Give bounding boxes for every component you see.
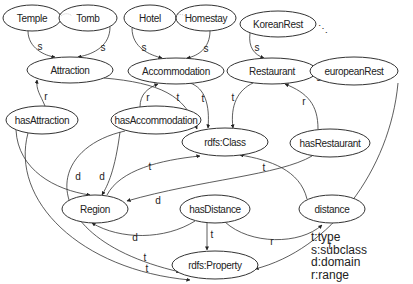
edge-temple-attraction: s <box>28 31 55 57</box>
edge-hasdistance-distance: r <box>225 222 322 247</box>
edge-hasrestaurant-restaurant: r <box>285 84 318 129</box>
node-label: Attraction <box>50 65 89 76</box>
node-distance: distance <box>299 195 365 223</box>
edge-restaurant-rdfsclass: t <box>232 83 253 128</box>
edge-label: t <box>177 92 180 103</box>
node-label: Accommodation <box>142 66 210 77</box>
legend-item-domain: d:domain <box>311 256 367 269</box>
edge-region-rdfsclass: t <box>107 156 200 195</box>
edge-label: r <box>302 96 306 107</box>
node-attraction: Attraction <box>27 57 113 83</box>
edge-hasaccommodation-region: d <box>99 132 120 195</box>
edge-line <box>285 84 318 129</box>
legend: t:type s:subclass d:domain r:range <box>311 231 367 281</box>
edge-line <box>232 83 253 128</box>
node-label: Tomb <box>76 13 100 24</box>
edge-line <box>240 155 307 199</box>
edge-hasattraction-region: d <box>16 130 90 195</box>
edge-distance-rdfsclass: t <box>240 155 307 199</box>
node-temple: Temple <box>3 5 61 31</box>
node-restaurant: Restaurant <box>227 58 317 84</box>
ellipsis-more-indicator: ⋱ <box>318 23 328 34</box>
node-hasaccommodation: hasAccommodation <box>111 106 201 134</box>
node-koreanrest: KoreanRest <box>240 11 316 37</box>
node-label: Hotel <box>139 13 161 24</box>
node-hasattraction: hasAttraction <box>6 106 78 134</box>
edge-label: t <box>202 93 205 104</box>
edge-label: d <box>132 232 138 243</box>
node-region: Region <box>62 195 128 223</box>
legend-item-range: r:range <box>311 269 367 282</box>
node-rdfsclass: rdfs:Class <box>182 128 268 156</box>
edge-label: t <box>211 229 214 240</box>
node-tomb: Tomb <box>59 5 117 31</box>
edge-line <box>16 130 90 195</box>
edge-label: r <box>270 236 274 247</box>
node-homestay: Homestay <box>176 5 236 31</box>
edge-koreanrest-restaurant: s <box>250 33 264 58</box>
node-hotel: Hotel <box>124 5 176 31</box>
edge-label: s <box>101 42 106 53</box>
node-label: KoreanRest <box>253 19 303 30</box>
edge-label: d <box>75 171 81 182</box>
edge-line <box>107 156 200 195</box>
node-label: Homestay <box>185 13 228 24</box>
edge-hotel-accommodation: s <box>132 28 162 58</box>
node-hasrestaurant: hasRestaurant <box>290 129 370 157</box>
edge-label: t <box>149 161 152 172</box>
node-hasdistance: hasDistance <box>180 195 250 223</box>
edge-label: t <box>263 162 266 173</box>
edge-homestay-accommodation: s <box>187 31 210 58</box>
edge-label: t <box>144 252 147 263</box>
edge-label: s <box>142 42 147 53</box>
node-label: rdfs:Property <box>188 260 242 271</box>
edge-label: r <box>44 91 48 102</box>
node-europeanrest: europeanRest <box>310 57 398 85</box>
edge-label: t <box>232 92 235 103</box>
edge-line <box>92 221 195 236</box>
legend-item-type: t:type <box>311 231 367 244</box>
edge-label: t <box>146 263 149 274</box>
node-label: Temple <box>17 13 48 24</box>
edge-tomb-attraction: s <box>78 27 110 57</box>
node-label: distance <box>315 204 351 215</box>
edge-hasattraction-attraction: r <box>37 80 48 106</box>
node-accommodation: Accommodation <box>128 58 224 84</box>
edge-line <box>132 28 162 58</box>
node-label: europeanRest <box>324 66 384 77</box>
edge-label: s <box>255 42 260 53</box>
edge-label: s <box>204 43 209 54</box>
node-rdfsproperty: rdfs:Property <box>172 251 258 279</box>
edge-line <box>102 132 120 195</box>
node-label: hasDistance <box>189 204 241 215</box>
edge-label: d <box>155 195 161 206</box>
node-label: hasAttraction <box>15 115 69 126</box>
node-label: rdfs:Class <box>204 137 246 148</box>
node-label: hasRestaurant <box>299 138 361 149</box>
edge-label: r <box>146 92 150 103</box>
edge-label: s <box>38 41 43 52</box>
edge-label: d <box>99 171 105 182</box>
edge-hasdistance-rdfsproperty: t <box>207 223 214 250</box>
node-label: Region <box>80 204 110 215</box>
node-label: hasAccommodation <box>114 115 197 126</box>
edge-hasdistance-region: d <box>92 221 195 243</box>
node-label: Restaurant <box>249 66 295 77</box>
